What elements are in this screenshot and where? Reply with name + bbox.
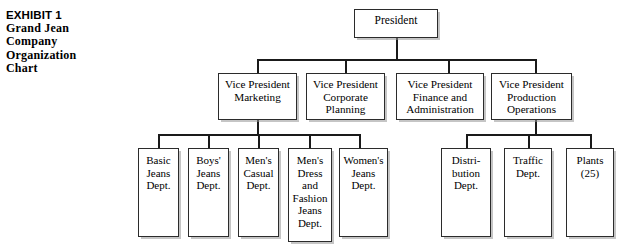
node-basic-jeans-dept-label: Basic Jeans Dept. <box>139 149 178 192</box>
node-vp-production[interactable]: Vice President Production Operations <box>491 73 572 120</box>
node-boys-jeans-dept[interactable]: Boys' Jeans Dept. <box>188 148 229 237</box>
node-plants[interactable]: Plants (25) <box>566 148 614 237</box>
node-vp-corporate-planning-label: Vice President Corporate Planning <box>307 74 384 116</box>
node-distribution-dept[interactable]: Distri- bution Dept. <box>441 148 491 237</box>
node-traffic-dept-label: Traffic Dept. <box>505 149 551 179</box>
connector-drop-distribution <box>466 134 468 148</box>
connector-drop-vp-finance <box>448 59 450 74</box>
connector-drop-womens-jeans <box>359 134 361 148</box>
node-president-label: President <box>355 10 437 26</box>
connector-drop-boys-jeans <box>208 134 210 148</box>
node-vp-corporate-planning[interactable]: Vice President Corporate Planning <box>306 73 385 120</box>
connector-drop-plants <box>590 134 592 148</box>
connector-vp-marketing-stem <box>257 120 259 135</box>
exhibit-title-line-2: Company <box>6 35 124 48</box>
org-chart-figure: EXHIBIT 1 Grand Jean Company Organizatio… <box>0 0 639 252</box>
node-distribution-dept-label: Distri- bution Dept. <box>442 149 490 192</box>
node-vp-finance[interactable]: Vice President Finance and Administratio… <box>396 73 484 120</box>
node-mens-dress-fashion-jeans-dept-label: Men's Dress and Fashion Jeans Dept. <box>289 149 331 230</box>
exhibit-title-line-4: Chart <box>6 62 124 75</box>
node-womens-jeans-dept[interactable]: Women's Jeans Dept. <box>339 148 388 237</box>
node-mens-casual-dept-label: Men's Casual Dept. <box>239 149 278 192</box>
connector-drop-mens-casual <box>258 134 260 148</box>
node-vp-marketing-label: Vice President Marketing <box>219 74 296 103</box>
connector-president-stem <box>396 38 398 60</box>
exhibit-caption: EXHIBIT 1 Grand Jean Company Organizatio… <box>6 9 124 75</box>
node-president[interactable]: President <box>354 9 438 38</box>
node-plants-label: Plants (25) <box>567 149 613 179</box>
node-mens-dress-fashion-jeans-dept[interactable]: Men's Dress and Fashion Jeans Dept. <box>288 148 332 242</box>
connector-drop-vp-corporate-planning <box>345 59 347 74</box>
node-traffic-dept[interactable]: Traffic Dept. <box>504 148 552 237</box>
connector-drop-traffic <box>528 134 530 148</box>
node-vp-marketing[interactable]: Vice President Marketing <box>218 73 297 120</box>
connector-president-bus <box>257 59 536 61</box>
connector-drop-mens-dress <box>309 134 311 148</box>
node-womens-jeans-dept-label: Women's Jeans Dept. <box>340 149 387 192</box>
connector-drop-vp-marketing <box>257 59 259 74</box>
connector-vp-production-stem <box>535 120 537 135</box>
exhibit-title-line-3: Organization <box>6 49 124 62</box>
node-vp-production-label: Vice President Production Operations <box>492 74 571 116</box>
connector-drop-basic-jeans <box>158 134 160 148</box>
node-mens-casual-dept[interactable]: Men's Casual Dept. <box>238 148 279 237</box>
node-vp-finance-label: Vice President Finance and Administratio… <box>397 74 483 116</box>
node-basic-jeans-dept[interactable]: Basic Jeans Dept. <box>138 148 179 237</box>
connector-drop-vp-production <box>535 59 537 74</box>
node-boys-jeans-dept-label: Boys' Jeans Dept. <box>189 149 228 192</box>
